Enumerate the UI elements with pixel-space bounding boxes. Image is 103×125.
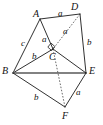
vertex-label-B: B — [2, 66, 8, 76]
edge-B-F — [13, 73, 65, 107]
side-label-AB: c — [21, 39, 25, 48]
side-label-BF: b — [34, 93, 39, 102]
edge-C-E — [53, 49, 86, 73]
vertex-label-C: C — [49, 52, 56, 62]
vertex-label-E: E — [89, 66, 95, 76]
side-label-DC: a — [63, 27, 68, 36]
figure-canvas — [0, 0, 103, 125]
geometry-figure: ABCDEF aaacbbba — [0, 0, 103, 125]
side-label-BC: b — [32, 52, 37, 61]
side-label-AC: a — [42, 35, 47, 44]
vertex-label-A: A — [33, 9, 39, 19]
vertex-label-D: D — [71, 2, 78, 12]
side-label-DE: b — [87, 38, 92, 47]
vertex-label-F: F — [62, 111, 68, 121]
side-label-EF: a — [76, 88, 81, 97]
edge-D-E — [80, 14, 86, 73]
side-label-AD: a — [58, 9, 63, 18]
